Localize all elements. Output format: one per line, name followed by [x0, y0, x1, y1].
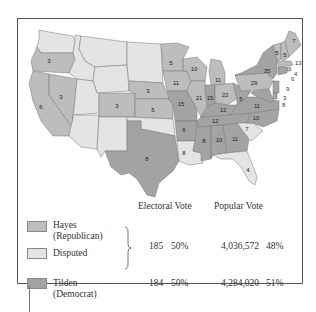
state-rhode-island	[287, 67, 291, 71]
label-virginia: 11	[254, 103, 261, 109]
label-north-carolina: 10	[253, 115, 260, 121]
state-massachusetts	[277, 61, 293, 67]
label-michigan: 11	[215, 77, 222, 83]
header-electoral-vote: Electoral Vote	[138, 201, 192, 211]
label-georgia: 11	[232, 136, 239, 142]
swatch-tilden-democrat	[27, 278, 47, 289]
header-popular-vote: Popular Vote	[214, 201, 263, 211]
label-tennessee: 12	[212, 118, 219, 124]
us-election-map-1876: 3 6 3 3 3 5 8 5 11 15 6 8 10 21 11 15 22…	[18, 19, 304, 209]
legend: Electoral Vote Popular Vote Hayes (Repub…	[18, 198, 304, 286]
label-illinois: 21	[196, 95, 203, 101]
legend-tilden-party: (Democrat)	[53, 289, 97, 300]
legend-disputed: Disputed	[53, 248, 87, 259]
tilden-popular-votes: 4,284,020	[221, 278, 259, 288]
state-arkansas	[175, 121, 197, 141]
label-missouri: 15	[178, 101, 185, 107]
hayes-popular-votes: 4,036,572	[221, 241, 259, 251]
legend-hayes-name: Hayes	[53, 220, 103, 231]
tilden-electoral-votes: 184	[149, 278, 163, 288]
hayes-popular-pct: 48%	[266, 241, 283, 251]
state-connecticut	[278, 67, 287, 75]
state-wyoming	[93, 65, 129, 93]
state-arizona	[69, 115, 99, 149]
hayes-electoral-votes: 185	[149, 241, 163, 251]
label-new-jersey: 9	[286, 86, 290, 92]
label-indiana: 15	[207, 95, 214, 101]
swatch-hayes-republican	[27, 221, 47, 232]
state-delaware	[273, 93, 277, 99]
state-new-jersey	[273, 81, 279, 93]
label-kentucky: 12	[220, 107, 227, 113]
state-dakota	[127, 42, 163, 83]
tilden-electoral-pct: 50%	[171, 278, 188, 288]
legend-tilden: Tilden (Democrat)	[53, 278, 97, 300]
legend-hayes-party: (Republican)	[53, 231, 103, 242]
map-frame: 3 6 3 3 3 5 8 5 11 15 6 8 10 21 11 15 22…	[17, 18, 303, 284]
swatch-disputed	[27, 248, 47, 259]
hayes-electoral-pct: 50%	[171, 241, 188, 251]
state-washington	[37, 30, 75, 53]
label-ohio: 22	[222, 92, 229, 98]
state-new-york	[235, 45, 277, 79]
state-florida	[213, 151, 257, 185]
label-wisconsin: 10	[191, 66, 198, 72]
brace-icon	[124, 226, 132, 270]
leader-line	[29, 285, 30, 312]
tilden-popular-pct: 51%	[266, 278, 283, 288]
label-iowa: 11	[173, 80, 180, 86]
label-new-york: 35	[264, 68, 271, 74]
label-alabama: 10	[216, 137, 223, 143]
label-pennsylvania: 29	[251, 80, 258, 86]
label-massachusetts: 13	[295, 60, 302, 66]
label-maryland: 8	[282, 102, 286, 108]
legend-hayes: Hayes (Republican)	[53, 220, 103, 242]
label-delaware: 3	[283, 95, 287, 101]
legend-tilden-name: Tilden	[53, 278, 97, 289]
label-rhode-island: 4	[294, 71, 298, 77]
